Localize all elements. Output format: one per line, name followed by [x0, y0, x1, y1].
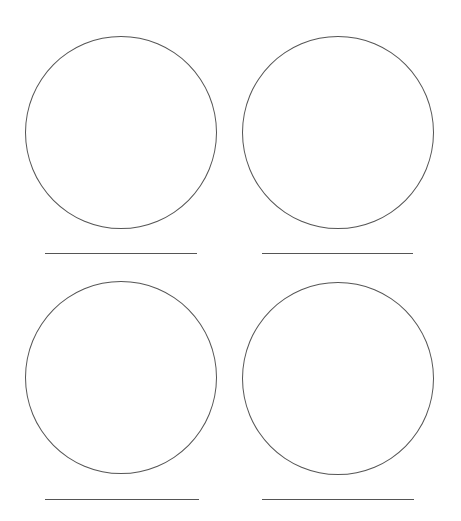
- circle-bottom-right: [242, 282, 434, 475]
- blank-line-top-left: [45, 253, 197, 254]
- blank-line-bottom-left: [45, 499, 199, 500]
- blank-line-bottom-right: [262, 499, 414, 500]
- circle-top-left: [25, 36, 217, 229]
- blank-line-top-right: [262, 253, 413, 254]
- circle-bottom-left: [25, 281, 217, 474]
- circle-top-right: [242, 36, 434, 229]
- diagram-canvas: [0, 0, 461, 521]
